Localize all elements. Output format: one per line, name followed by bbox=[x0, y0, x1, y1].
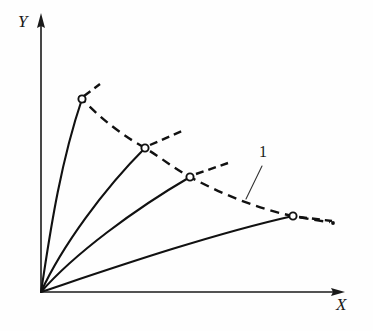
dashed-envelope-curve-1 bbox=[79, 96, 330, 222]
endpoint-marker-3 bbox=[186, 173, 193, 180]
dashed-envelope-group bbox=[79, 96, 335, 225]
callout-label-1: 1 bbox=[259, 143, 267, 161]
y-axis-label: Y bbox=[18, 12, 28, 32]
endpoint-marker-4 bbox=[289, 212, 296, 219]
marker-stub-2 bbox=[150, 131, 182, 145]
callout-group bbox=[246, 166, 262, 199]
marker-stubs-group bbox=[84, 84, 332, 221]
endpoint-marker-1 bbox=[78, 95, 85, 102]
marker-stub-3 bbox=[196, 163, 228, 174]
solid-curves-group bbox=[41, 99, 293, 292]
figure-container: Y X 1 bbox=[0, 0, 373, 331]
endpoint-marker-2 bbox=[141, 144, 148, 151]
callout-leader-line bbox=[246, 166, 262, 199]
marker-stub-1 bbox=[84, 84, 100, 96]
solid-curve-1 bbox=[41, 99, 82, 292]
solid-curve-2 bbox=[41, 148, 145, 292]
y-axis-arrowhead bbox=[37, 13, 45, 28]
axes-group bbox=[37, 13, 345, 296]
solid-curve-3 bbox=[41, 177, 190, 292]
x-axis-label: X bbox=[336, 295, 347, 315]
figure-canvas bbox=[0, 0, 373, 331]
